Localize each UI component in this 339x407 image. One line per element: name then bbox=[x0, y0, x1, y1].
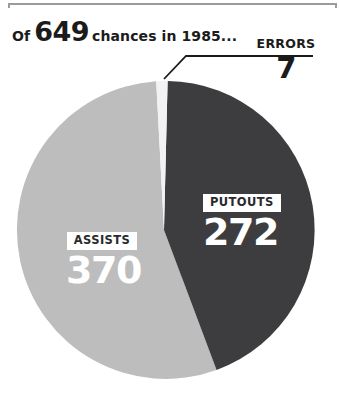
errors-value: 7 bbox=[253, 54, 319, 83]
assists-label-group: ASSISTS 370 bbox=[66, 231, 138, 289]
errors-callout: ERRORS 7 bbox=[253, 38, 319, 83]
assists-value: 370 bbox=[66, 251, 138, 289]
infographic-root: Of649chances in 1985... ERRORS 7 PUTOUTS… bbox=[0, 0, 339, 407]
putouts-label: PUTOUTS bbox=[203, 194, 281, 212]
assists-label: ASSISTS bbox=[67, 232, 137, 250]
errors-label: ERRORS bbox=[253, 38, 319, 51]
putouts-label-group: PUTOUTS 272 bbox=[203, 193, 273, 251]
putouts-value: 272 bbox=[203, 213, 273, 251]
